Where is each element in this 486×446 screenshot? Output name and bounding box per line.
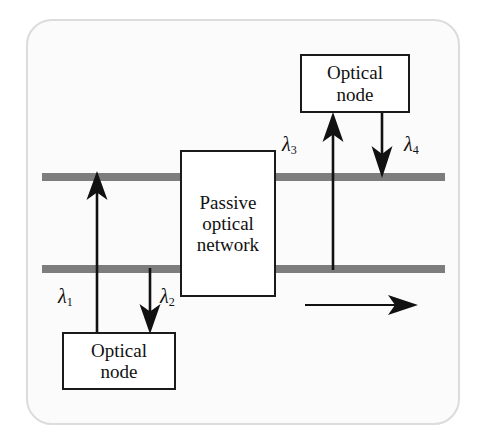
lambda2-arrow	[140, 268, 161, 334]
passive-optical-network-box[interactable]: Passive optical network	[180, 150, 276, 297]
lambda4-index: 4	[413, 143, 419, 157]
lambda2-symbol: λ	[160, 285, 169, 307]
optical-node-bottom-line2: node	[101, 361, 138, 382]
lambda3-index: 3	[291, 143, 297, 157]
lambda2-label: λ2	[160, 285, 175, 310]
pon-line1: Passive	[200, 192, 257, 213]
lambda3-arrow	[323, 112, 344, 270]
lambda1-index: 1	[67, 295, 73, 309]
lambda4-label: λ4	[404, 133, 419, 158]
lambda3-symbol: λ	[282, 133, 291, 155]
optical-node-top-line2: node	[337, 84, 374, 105]
lambda4-arrow	[372, 113, 393, 178]
propagation-direction-arrow	[305, 295, 418, 315]
lambda1-arrow	[87, 171, 108, 333]
lambda3-label: λ3	[282, 133, 297, 158]
lambda1-symbol: λ	[58, 285, 67, 307]
lambda4-symbol: λ	[404, 133, 413, 155]
optical-node-top[interactable]: Optical node	[300, 54, 410, 113]
optical-node-bottom[interactable]: Optical node	[62, 332, 176, 390]
figure-canvas: Optical node Passive optical network Opt…	[0, 0, 486, 446]
optical-node-top-line1: Optical	[327, 62, 383, 83]
lambda2-index: 2	[169, 295, 175, 309]
lambda1-label: λ1	[58, 285, 73, 310]
pon-line2: optical	[202, 213, 254, 234]
optical-network-figure: Optical node Passive optical network Opt…	[0, 0, 486, 446]
pon-line3: network	[197, 234, 259, 255]
optical-node-bottom-line1: Optical	[91, 340, 147, 361]
